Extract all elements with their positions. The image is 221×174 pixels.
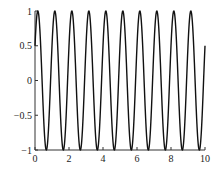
y-tick-label: −1 [21, 145, 32, 156]
y-tick-label: 1 [27, 6, 32, 17]
x-tick-label: 0 [33, 153, 38, 164]
x-tick-label: 10 [200, 153, 210, 164]
x-tick-label: 4 [101, 153, 106, 164]
x-tick-label: 6 [135, 153, 140, 164]
y-tick-label: −0.5 [14, 110, 32, 121]
y-ticks: −1−0.500.51 [14, 6, 38, 156]
y-tick-label: 0.5 [20, 40, 33, 51]
x-tick-label: 8 [169, 153, 174, 164]
line-chart: −1−0.500.51 0246810 [0, 0, 221, 174]
x-tick-label: 2 [67, 153, 72, 164]
y-tick-label: 0 [27, 75, 32, 86]
data-series-line [35, 11, 205, 150]
